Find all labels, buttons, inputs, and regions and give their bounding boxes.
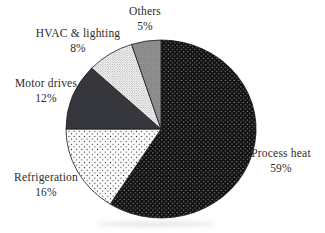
- label-others: Others 5%: [129, 4, 161, 33]
- pie-slices-group: [66, 40, 256, 218]
- slice-percent-hvac-lighting: 8%: [36, 41, 121, 56]
- slice-name-motor-drives: Motor drives: [15, 76, 77, 91]
- label-refrigeration: Refrigeration 16%: [14, 170, 78, 199]
- slice-percent-process-heat: 59%: [251, 161, 311, 176]
- slice-name-hvac-lighting: HVAC & lighting: [36, 26, 121, 41]
- label-motor-drives: Motor drives 12%: [15, 76, 77, 105]
- slice-percent-refrigeration: 16%: [14, 185, 78, 200]
- slice-name-process-heat: Process heat: [251, 146, 311, 161]
- slice-percent-motor-drives: 12%: [15, 91, 77, 106]
- figure-pie-chart: Process heat 59% Refrigeration 16% Motor…: [0, 0, 325, 233]
- slice-percent-others: 5%: [129, 19, 161, 34]
- label-process-heat: Process heat 59%: [251, 146, 311, 175]
- scan-smudge: [95, 221, 215, 227]
- slice-name-refrigeration: Refrigeration: [14, 170, 78, 185]
- label-hvac-lighting: HVAC & lighting 8%: [36, 26, 121, 55]
- slice-name-others: Others: [129, 4, 161, 19]
